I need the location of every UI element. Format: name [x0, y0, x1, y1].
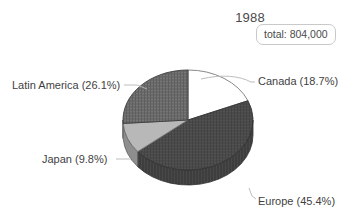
pie-label-canada: Canada (18.7%) [258, 76, 338, 87]
pie-top-faces [123, 70, 253, 170]
pie-graphic [0, 0, 362, 222]
pie-chart-figure: 1988 total: 804,000 [0, 0, 362, 222]
pie-label-europe: Europe (45.4%) [258, 196, 335, 207]
pie-slice-latin-america[interactable] [123, 70, 188, 123]
pie-label-japan: Japan (9.8%) [42, 154, 107, 165]
leader-line-europe [249, 188, 256, 199]
pie-label-latin-america: Latin America (26.1%) [12, 80, 120, 91]
